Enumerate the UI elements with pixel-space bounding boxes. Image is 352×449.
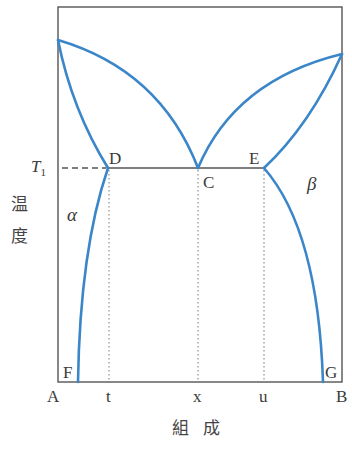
- y-axis-title: 温 度: [8, 188, 30, 253]
- y-axis-title-char-1: 温: [8, 188, 30, 220]
- solvus-left-curve: [78, 168, 108, 382]
- x-axis-title: 組成: [172, 414, 234, 439]
- liquidus-left-curve: [58, 40, 198, 168]
- t1-label-sub: 1: [40, 166, 46, 178]
- region-label-beta: β: [307, 174, 316, 193]
- x-tick-b: B: [336, 388, 347, 405]
- y-axis-title-char-2: 度: [8, 220, 30, 252]
- point-label-g: G: [325, 364, 337, 381]
- point-label-f: F: [63, 364, 72, 381]
- point-label-c: C: [203, 174, 214, 191]
- solidus-right-curve: [264, 54, 342, 168]
- point-label-d: D: [109, 150, 121, 167]
- solidus-left-curve: [58, 40, 108, 168]
- x-tick-a: A: [47, 388, 59, 405]
- phase-diagram-plot: [0, 0, 352, 449]
- x-tick-u: u: [259, 388, 268, 405]
- liquidus-right-curve: [198, 54, 342, 168]
- solvus-right-curve: [264, 168, 323, 382]
- point-label-e: E: [249, 150, 259, 167]
- region-label-alpha: α: [67, 205, 77, 224]
- x-tick-x: x: [193, 388, 202, 405]
- t1-label: T1: [31, 158, 46, 178]
- x-tick-t: t: [106, 388, 111, 405]
